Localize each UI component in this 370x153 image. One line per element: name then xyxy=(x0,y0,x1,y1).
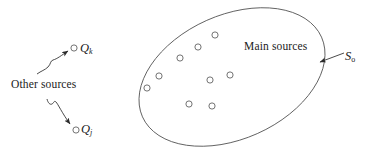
main-source-marker xyxy=(209,103,215,109)
boundary-subscript: o xyxy=(351,55,355,64)
main-source-marker xyxy=(207,77,213,83)
other-source-marker-qj xyxy=(73,127,79,133)
main-source-markers xyxy=(144,32,233,109)
other-source-marker-qk xyxy=(71,45,77,51)
main-sources-label: Main sources xyxy=(244,41,307,53)
source-qj-subscript: j xyxy=(90,128,92,137)
leader-arrow-qj xyxy=(47,99,70,124)
source-qj-symbol: Q xyxy=(81,122,90,136)
boundary-surface-ellipse xyxy=(117,0,346,153)
source-qj-label: Qj xyxy=(81,123,92,137)
main-source-marker xyxy=(177,55,183,61)
main-source-marker xyxy=(195,44,201,50)
main-source-marker xyxy=(144,85,150,91)
main-source-marker xyxy=(227,72,233,78)
diagram-canvas xyxy=(0,0,370,153)
source-distribution-diagram: Main sources Other sources Qk Qj So xyxy=(0,0,370,153)
source-qk-subscript: k xyxy=(89,47,93,56)
main-source-marker xyxy=(212,32,218,38)
main-source-marker xyxy=(186,101,192,107)
source-qk-label: Qk xyxy=(80,42,93,56)
source-qk-symbol: Q xyxy=(80,41,89,55)
leader-arrow-boundary xyxy=(320,53,344,62)
leader-arrow-qk xyxy=(37,51,68,74)
main-source-marker xyxy=(156,73,162,79)
boundary-surface-label: So xyxy=(345,50,355,64)
other-sources-label: Other sources xyxy=(11,79,77,91)
